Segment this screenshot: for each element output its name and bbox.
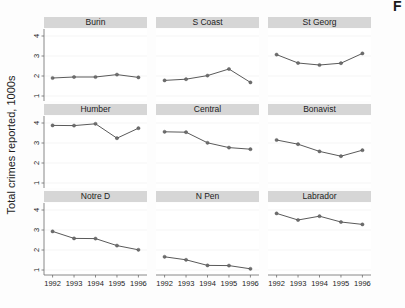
y-axis-tick-label: 3: [32, 228, 41, 232]
data-point[interactable]: [275, 138, 278, 141]
x-axis-tick-label: 1993: [178, 279, 195, 288]
data-point[interactable]: [184, 131, 187, 134]
data-point[interactable]: [296, 61, 299, 64]
y-axis-tick-label: 4: [32, 34, 41, 38]
data-point[interactable]: [249, 267, 252, 270]
panel-n-pen: N Pen19921993199419951996: [156, 191, 259, 288]
panel-humber: Humber1234: [32, 104, 147, 188]
data-point[interactable]: [72, 75, 75, 78]
y-axis-tick-label: 3: [32, 54, 41, 58]
x-axis-tick-label: 1996: [130, 279, 147, 288]
data-point[interactable]: [339, 155, 342, 158]
panel-title: S Coast: [192, 17, 223, 27]
data-point[interactable]: [51, 124, 54, 127]
data-point[interactable]: [184, 78, 187, 81]
data-point[interactable]: [361, 223, 364, 226]
data-point[interactable]: [206, 264, 209, 267]
x-axis-tick-label: 1994: [199, 279, 216, 288]
figure-container: F Total crimes reported, 1000s Burin1234…: [0, 0, 405, 308]
panel-background: [156, 29, 259, 101]
panel-background: [44, 29, 147, 101]
x-axis-tick-label: 1995: [333, 279, 350, 288]
data-point[interactable]: [115, 137, 118, 140]
x-axis-tick-label: 1992: [268, 279, 285, 288]
data-point[interactable]: [249, 81, 252, 84]
data-point[interactable]: [51, 76, 54, 79]
panel-title: Notre D: [81, 191, 110, 201]
panel-title: Bonavist: [303, 104, 336, 114]
x-axis-tick-label: 1995: [109, 279, 126, 288]
data-point[interactable]: [115, 244, 118, 247]
y-axis-tick-label: 1: [32, 268, 41, 272]
data-point[interactable]: [206, 74, 209, 77]
x-axis-tick-label: 1994: [87, 279, 104, 288]
x-axis-tick-label: 1992: [156, 279, 173, 288]
panel-labrador: Labrador19921993199419951996: [268, 191, 371, 288]
x-axis-tick-label: 1995: [221, 279, 238, 288]
y-axis-tick-label: 2: [32, 74, 41, 78]
data-point[interactable]: [137, 76, 140, 79]
data-point[interactable]: [137, 248, 140, 251]
panel-title: Burin: [86, 17, 106, 27]
y-axis-tick-label: 4: [32, 121, 41, 125]
data-point[interactable]: [163, 79, 166, 82]
y-axis-tick-label: 2: [32, 248, 41, 252]
data-point[interactable]: [318, 215, 321, 218]
data-point[interactable]: [361, 52, 364, 55]
data-point[interactable]: [72, 124, 75, 127]
data-point[interactable]: [227, 67, 230, 70]
data-point[interactable]: [296, 143, 299, 146]
data-point[interactable]: [318, 150, 321, 153]
x-axis-tick-label: 1996: [354, 279, 371, 288]
data-point[interactable]: [163, 130, 166, 133]
y-axis-tick-label: 1: [32, 181, 41, 185]
y-axis-tick-label: 3: [32, 141, 41, 145]
data-point[interactable]: [94, 122, 97, 125]
data-point[interactable]: [137, 127, 140, 130]
data-point[interactable]: [94, 75, 97, 78]
data-point[interactable]: [227, 264, 230, 267]
trellis-plot: Burin1234S CoastSt GeorgHumber1234Centra…: [0, 0, 405, 308]
data-point[interactable]: [163, 255, 166, 258]
data-point[interactable]: [115, 73, 118, 76]
x-axis-tick-label: 1992: [44, 279, 61, 288]
data-point[interactable]: [275, 53, 278, 56]
data-point[interactable]: [227, 146, 230, 149]
panel-background: [156, 116, 259, 188]
panel-title: St Georg: [302, 17, 336, 27]
data-point[interactable]: [184, 258, 187, 261]
panel-title: N Pen: [196, 191, 220, 201]
panel-background: [268, 203, 371, 275]
panel-background: [44, 116, 147, 188]
data-point[interactable]: [339, 220, 342, 223]
y-axis-tick-label: 2: [32, 161, 41, 165]
y-axis-tick-label: 4: [32, 208, 41, 212]
data-point[interactable]: [206, 141, 209, 144]
panel-title: Humber: [80, 104, 110, 114]
data-point[interactable]: [318, 63, 321, 66]
data-point[interactable]: [275, 212, 278, 215]
data-point[interactable]: [361, 149, 364, 152]
data-point[interactable]: [296, 218, 299, 221]
panel-st-georg: St Georg: [268, 17, 371, 101]
x-axis-tick-label: 1993: [66, 279, 83, 288]
data-point[interactable]: [339, 62, 342, 65]
panel-burin: Burin1234: [32, 17, 147, 101]
y-axis-tick-label: 1: [32, 94, 41, 98]
panel-bonavist: Bonavist: [268, 104, 371, 188]
panel-s-coast: S Coast: [156, 17, 259, 101]
panel-central: Central: [156, 104, 259, 188]
x-axis-tick-label: 1993: [290, 279, 307, 288]
x-axis-tick-label: 1994: [311, 279, 328, 288]
x-axis-tick-label: 1996: [242, 279, 259, 288]
data-point[interactable]: [72, 237, 75, 240]
data-point[interactable]: [51, 230, 54, 233]
panel-notre-d: Notre D123419921993199419951996: [32, 191, 147, 288]
data-point[interactable]: [249, 148, 252, 151]
panel-title: Central: [194, 104, 222, 114]
data-point[interactable]: [94, 237, 97, 240]
panel-title: Labrador: [302, 191, 336, 201]
